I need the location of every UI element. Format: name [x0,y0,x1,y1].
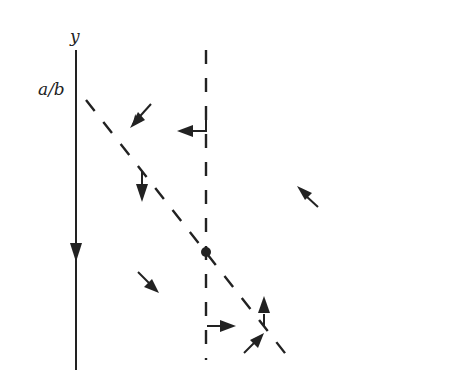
arrowhead-icon [297,186,312,200]
diagram-canvas [0,0,456,370]
y-axis-label: y [70,26,80,46]
arrowhead-icon [258,296,270,313]
diagonal-nullcline [86,100,292,362]
arrow-icon [138,272,150,284]
arrowhead-icon [220,320,236,332]
flow-arrows [130,104,318,353]
arrow-icon [306,196,318,207]
arrowhead-icon [177,125,193,137]
tick-label-a-over-b: a/b [38,79,65,99]
arrowhead-icon [136,184,148,202]
y-axis [70,50,82,370]
equilibrium-point [201,247,211,257]
axis-down-arrow-icon [70,243,82,262]
